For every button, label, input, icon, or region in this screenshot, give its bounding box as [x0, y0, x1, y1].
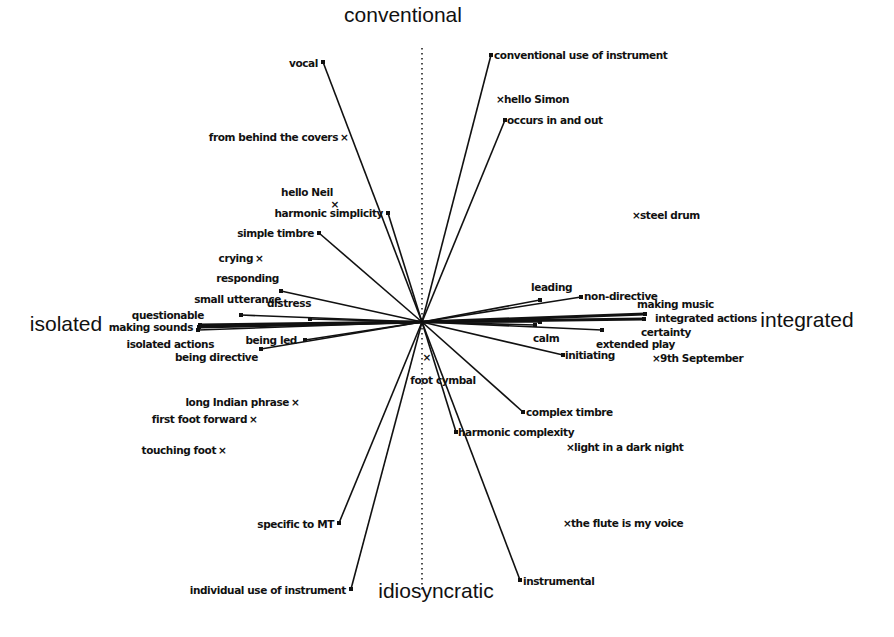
construct-label-conventional-use-of-instrument: conventional use of instrument [494, 49, 668, 61]
construct-label-complex-timbre: complex timbre [526, 406, 613, 418]
element-label: long Indian phrase [185, 396, 289, 408]
construct-label-responding: responding [216, 272, 279, 284]
element-label: touching foot [142, 444, 217, 456]
element-point-hello-simon: ×hello Simon [496, 93, 569, 105]
construct-line-instrumental [422, 322, 520, 580]
construct-line-simple-timbre [319, 233, 422, 322]
axis-label-integrated: integrated [760, 308, 853, 331]
construct-label-calm: calm [533, 332, 560, 344]
construct-label-distress: distress [267, 297, 311, 309]
construct-line-conventional-use-of-instrument [422, 55, 491, 322]
construct-label-specific-to-mt: specific to MT [257, 518, 335, 530]
construct-endpoint-marker [521, 410, 525, 414]
construct-line-complex-timbre [422, 322, 523, 412]
element-label: crying [219, 252, 253, 264]
construct-label-individual-use-of-instrument: individual use of instrument [190, 584, 347, 596]
construct-endpoint-marker [538, 320, 542, 324]
cross-marker-icon: × [218, 444, 227, 456]
element-label: foot cymbal [410, 374, 475, 386]
cross-marker-icon: × [331, 198, 340, 210]
cross-marker-icon: × [291, 396, 300, 408]
element-label: light in a dark night [574, 441, 684, 453]
element-points: from behind the covers×hello Neil×crying… [142, 93, 745, 529]
construct-label-simple-timbre: simple timbre [237, 227, 314, 239]
construct-endpoint-marker [579, 295, 583, 299]
construct-endpoint-marker [317, 231, 321, 235]
element-label: steel drum [640, 209, 700, 221]
construct-endpoint-marker [642, 317, 646, 321]
construct-label-questionable: questionable [132, 309, 204, 321]
construct-endpoint-marker [538, 298, 542, 302]
construct-endpoint-marker [259, 347, 263, 351]
construct-endpoint-marker [533, 323, 537, 327]
construct-endpoint-marker [196, 328, 200, 332]
element-point-foot-cymbal: foot cymbal× [410, 351, 475, 386]
cross-marker-icon: × [423, 351, 432, 363]
construct-label-isolated-actions: isolated actions [126, 338, 214, 350]
cross-marker-icon: × [255, 252, 264, 264]
construct-label-initiating: initiating [565, 349, 615, 361]
element-label: 9th September [660, 352, 745, 364]
element-label: hello Simon [504, 93, 569, 105]
element-point-crying: crying× [219, 252, 264, 264]
cross-marker-icon: × [340, 131, 349, 143]
construct-endpoint-marker [337, 521, 341, 525]
element-point-first-foot-forward: first foot forward× [152, 413, 258, 425]
construct-endpoint-marker [349, 587, 353, 591]
construct-label-harmonic-simplicity: harmonic simplicity [275, 207, 384, 219]
construct-endpoint-marker [600, 328, 604, 332]
axis-labels: conventional idiosyncratic isolated inte… [30, 3, 854, 602]
construct-endpoint-marker [321, 60, 325, 64]
construct-label-making-music: making music [637, 298, 714, 310]
element-label: first foot forward [152, 413, 247, 425]
construct-biplot: vocalconventional use of instrumentoccur… [0, 0, 894, 637]
construct-label-making-sounds: making sounds [109, 321, 193, 333]
construct-endpoint-marker [643, 312, 647, 316]
construct-label-being-led: being led [245, 334, 297, 346]
element-point-9th-september: ×9th September [652, 352, 745, 364]
element-point-the-flute-is-my-voice: ×the flute is my voice [563, 517, 684, 529]
element-point-from-behind-the-covers: from behind the covers× [209, 131, 349, 143]
construct-endpoint-marker [518, 578, 522, 582]
construct-label-vocal: vocal [289, 57, 318, 69]
construct-label-leading: leading [531, 281, 572, 293]
construct-label-instrumental: instrumental [523, 575, 594, 587]
axis-label-conventional: conventional [344, 3, 462, 26]
construct-line-harmonic-simplicity [388, 213, 422, 322]
construct-line-individual-use-of-instrument [351, 322, 422, 589]
construct-label-being-directive: being directive [175, 351, 258, 363]
construct-endpoint-marker [489, 53, 493, 57]
axis-label-idiosyncratic: idiosyncratic [378, 579, 494, 602]
element-point-long-indian-phrase: long Indian phrase× [185, 396, 299, 408]
element-label: hello Neil [281, 186, 333, 198]
element-label: from behind the covers [209, 131, 338, 143]
construct-label-harmonic-complexity: harmonic complexity [458, 426, 575, 438]
construct-line-vocal [323, 62, 422, 322]
construct-label-occurs-in-and-out: occurs in and out [507, 114, 603, 126]
construct-label-certainty: certainty [641, 326, 692, 338]
construct-endpoint-marker [308, 317, 312, 321]
element-point-light-in-a-dark-night: ×light in a dark night [566, 441, 684, 453]
construct-line-occurs-in-and-out [422, 120, 505, 322]
element-point-touching-foot: touching foot× [142, 444, 227, 456]
construct-label-integrated-actions: integrated actions [655, 312, 757, 324]
cross-marker-icon: × [249, 413, 258, 425]
element-point-steel-drum: ×steel drum [632, 209, 700, 221]
construct-line-specific-to-mt [339, 322, 422, 523]
element-label: the flute is my voice [571, 517, 684, 529]
construct-endpoint-marker [239, 313, 243, 317]
axis-label-isolated: isolated [30, 312, 102, 335]
construct-endpoint-marker [386, 211, 390, 215]
